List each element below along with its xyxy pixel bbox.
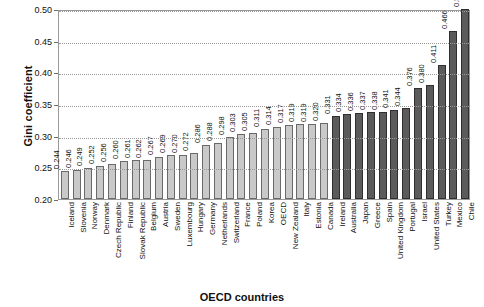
plot-area: 0.2440.2460.2490.2520.2560.2600.2610.262… xyxy=(58,10,470,200)
bar-slot: 0.376 xyxy=(412,11,424,199)
gridline xyxy=(59,106,469,107)
x-axis-tick-label: Denmark xyxy=(102,202,111,234)
x-axis-tick-label: New Zealand xyxy=(291,202,300,249)
bar-value-label: 0.334 xyxy=(334,93,343,112)
bar-slot: 0.303 xyxy=(236,11,248,199)
x-axis-tick-label: Norway xyxy=(90,202,99,229)
bar[interactable] xyxy=(332,116,340,199)
gridline xyxy=(59,138,469,139)
gridline xyxy=(59,74,469,75)
y-axis-tick-label: 0.20 xyxy=(18,195,52,205)
x-axis-tick-label: Greece xyxy=(373,202,382,228)
bar-value-label: 0.376 xyxy=(405,67,414,86)
x-axis-tick-label: OECD xyxy=(279,202,288,225)
y-axis-tick-mark xyxy=(54,200,58,201)
x-axis-tick-label: Canada xyxy=(326,202,335,230)
bar-value-label: 0.314 xyxy=(264,106,273,125)
bar[interactable] xyxy=(367,112,375,199)
bar-slot: 0.288 xyxy=(212,11,224,199)
bar[interactable] xyxy=(261,129,269,199)
bar[interactable] xyxy=(143,160,151,199)
x-axis-tick-label: Estonia xyxy=(314,202,323,229)
bar[interactable] xyxy=(296,124,304,199)
bar-value-label: 0.336 xyxy=(346,92,355,111)
x-axis-tick-label: Korea xyxy=(267,202,276,223)
bar[interactable] xyxy=(343,114,351,199)
x-axis-tick-label: Germany xyxy=(208,202,217,235)
bar[interactable] xyxy=(61,171,69,199)
bar[interactable] xyxy=(179,155,187,199)
bar[interactable] xyxy=(414,88,422,199)
bar-slot: 0.298 xyxy=(224,11,236,199)
x-axis-tick-label: Netherlands xyxy=(220,202,229,245)
bar-value-label: 0.411 xyxy=(429,45,438,63)
bar[interactable] xyxy=(320,123,328,199)
gridline xyxy=(59,11,469,12)
bar[interactable] xyxy=(285,125,293,199)
bar[interactable] xyxy=(249,133,257,200)
y-axis-tick-label: 0.25 xyxy=(18,163,52,173)
bar[interactable] xyxy=(308,124,316,199)
y-axis-tick-mark xyxy=(54,42,58,43)
bar-value-label: 0.298 xyxy=(217,116,226,135)
y-axis-tick-label: 0.35 xyxy=(18,100,52,110)
bar-slot: 0.260 xyxy=(118,11,130,199)
bar-value-label: 0.260 xyxy=(111,140,120,159)
bar-slot: 0.262 xyxy=(141,11,153,199)
bar-slot: 0.246 xyxy=(71,11,83,199)
bar[interactable] xyxy=(355,113,363,199)
bar[interactable] xyxy=(390,110,398,199)
bar-value-label: 0.272 xyxy=(181,133,190,152)
bar-value-label: 0.262 xyxy=(134,139,143,158)
bar-value-label: 0.244 xyxy=(52,150,61,169)
bar-value-label: 0.337 xyxy=(358,91,367,110)
x-axis-tick-label: Sweden xyxy=(173,202,182,231)
bar-value-label: 0.311 xyxy=(252,108,261,126)
bar-value-label: 0.256 xyxy=(99,143,108,162)
bar[interactable] xyxy=(167,155,175,199)
y-axis-tick-label: 0.50 xyxy=(18,5,52,15)
bar[interactable] xyxy=(120,161,128,199)
x-axis-tick-label: Mexico xyxy=(455,202,464,227)
bar[interactable] xyxy=(202,145,210,199)
bar[interactable] xyxy=(379,112,387,199)
gini-coefficient-bar-chart: Gini coefficient 0.2440.2460.2490.2520.2… xyxy=(0,0,484,307)
x-axis-tick-label: Japan xyxy=(361,202,370,224)
bar-value-label: 0.344 xyxy=(393,87,402,106)
bar[interactable] xyxy=(402,108,410,199)
bar[interactable] xyxy=(461,9,469,199)
x-axis-tick-label: Italy xyxy=(302,202,311,217)
bar-value-label: 0.246 xyxy=(64,149,73,168)
bar-value-label: 0.500 xyxy=(452,0,461,7)
bar[interactable] xyxy=(237,134,245,199)
bar-slot: 0.269 xyxy=(165,11,177,199)
bar[interactable] xyxy=(438,65,446,199)
bar[interactable] xyxy=(190,153,198,199)
bar[interactable] xyxy=(96,166,104,199)
x-axis-tick-label: Australia xyxy=(349,202,358,233)
bar-value-label: 0.341 xyxy=(381,89,390,108)
bar-slot: 0.411 xyxy=(436,11,448,199)
bar-slot: 0.500 xyxy=(459,11,471,199)
bar[interactable] xyxy=(226,137,234,199)
bar[interactable] xyxy=(214,143,222,199)
bar-slot: 0.270 xyxy=(177,11,189,199)
bar[interactable] xyxy=(73,170,81,199)
x-axis-tick-label: France xyxy=(243,202,252,227)
bar[interactable] xyxy=(449,31,457,199)
bar[interactable] xyxy=(84,168,92,199)
x-axis-tick-label: Slovak Republic xyxy=(138,202,147,259)
x-axis-tick-label: Turkey xyxy=(444,202,453,226)
bar-slot: 0.267 xyxy=(153,11,165,199)
bar-slot: 0.249 xyxy=(83,11,95,199)
x-axis-tick-label: Finland xyxy=(126,202,135,228)
bar[interactable] xyxy=(155,157,163,199)
bar-slot: 0.305 xyxy=(247,11,259,199)
x-axis-tick-label: Poland xyxy=(255,202,264,227)
bar-value-label: 0.303 xyxy=(228,113,237,132)
y-axis-tick-label: 0.40 xyxy=(18,68,52,78)
bar[interactable] xyxy=(132,160,140,199)
x-axis-tick-labels: IcelandSloveniaNorwayDenmarkCzech Republ… xyxy=(58,202,470,274)
bar[interactable] xyxy=(426,85,434,199)
x-axis-tick-label: Switzerland xyxy=(232,202,241,243)
